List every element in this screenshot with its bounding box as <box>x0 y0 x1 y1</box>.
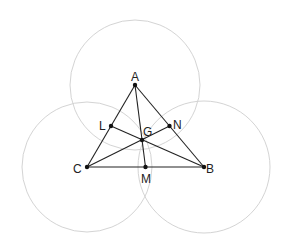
point-n <box>167 124 171 128</box>
label-c: C <box>73 162 82 176</box>
point-m <box>143 165 147 169</box>
point-l <box>109 124 113 128</box>
label-m: M <box>141 172 151 186</box>
triangle-centroid-diagram: A B C L M N G <box>0 0 288 249</box>
label-g: G <box>143 125 152 139</box>
label-b: B <box>206 162 214 176</box>
label-n: N <box>173 118 182 132</box>
label-l: L <box>99 119 106 133</box>
point-c <box>85 165 89 169</box>
label-a: A <box>131 70 139 84</box>
